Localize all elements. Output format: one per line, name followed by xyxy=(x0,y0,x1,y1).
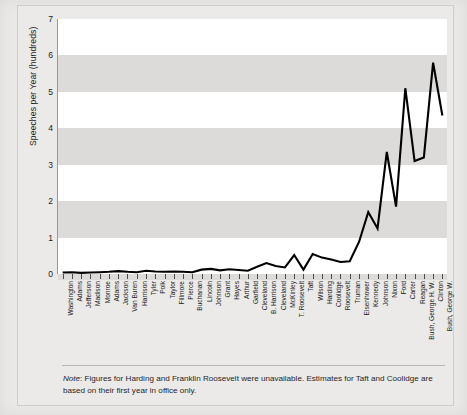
x-axis-label: Nixon xyxy=(390,281,397,298)
x-axis-label: Reagan xyxy=(418,281,425,304)
x-axis-label: Adams xyxy=(112,281,119,302)
x-axis-label: Jackson xyxy=(121,281,128,305)
x-tick-mark xyxy=(81,274,82,279)
x-axis-label: B. Harrison xyxy=(269,281,276,314)
x-axis-label: Kennedy xyxy=(371,281,378,307)
x-tick-mark xyxy=(127,274,128,279)
x-tick-mark xyxy=(100,274,101,279)
x-tick-mark xyxy=(396,274,397,279)
x-tick-mark xyxy=(174,274,175,279)
x-tick-mark xyxy=(340,274,341,279)
x-axis-label: Jefferson xyxy=(84,281,91,308)
x-tick-mark xyxy=(331,274,332,279)
x-tick-mark xyxy=(359,274,360,279)
x-tick-mark xyxy=(276,274,277,279)
x-tick-mark xyxy=(433,274,434,279)
page-background: Speeches per Year (hundreds) 01234567 Wa… xyxy=(0,0,467,415)
x-tick-mark xyxy=(220,274,221,279)
x-tick-mark xyxy=(266,274,267,279)
x-tick-mark xyxy=(303,274,304,279)
x-tick-mark xyxy=(294,274,295,279)
x-tick-mark xyxy=(137,274,138,279)
x-axis-label: Roosevelt xyxy=(343,281,350,310)
x-axis-label: Grant xyxy=(223,281,230,298)
x-tick-mark xyxy=(257,274,258,279)
x-tick-mark xyxy=(239,274,240,279)
y-tick-label: 2 xyxy=(48,197,53,206)
x-axis-label: Lincoln xyxy=(205,281,212,302)
x-axis-label: Taylor xyxy=(168,281,175,299)
y-tick-label: 5 xyxy=(48,88,53,97)
x-axis-label: Adams xyxy=(75,281,82,302)
x-tick-mark xyxy=(165,274,166,279)
chart-note: Note: Figures for Harding and Franklin R… xyxy=(63,373,448,396)
x-tick-mark xyxy=(90,274,91,279)
x-axis-label: Coolidge xyxy=(334,281,341,307)
x-axis-label: Harding xyxy=(325,281,332,304)
x-axis-label: Bush, George W. xyxy=(445,281,452,331)
y-axis-label-host: Speeches per Year (hundreds) xyxy=(30,6,44,274)
x-axis-label: Johnson xyxy=(381,281,388,306)
x-axis-label: Hayes xyxy=(232,281,239,300)
x-tick-mark xyxy=(405,274,406,279)
x-tick-mark xyxy=(313,274,314,279)
x-axis-label: Garfield xyxy=(251,281,258,304)
x-tick-mark xyxy=(192,274,193,279)
x-tick-mark xyxy=(387,274,388,279)
x-tick-mark xyxy=(248,274,249,279)
x-axis-label: Polk xyxy=(158,281,165,294)
x-tick-mark xyxy=(183,274,184,279)
y-axis-label: Speeches per Year (hundreds) xyxy=(28,27,38,146)
x-axis-label: Wilson xyxy=(316,281,323,301)
note-prefix: Note xyxy=(63,374,80,383)
y-tick-label: 0 xyxy=(48,270,53,279)
x-tick-mark xyxy=(350,274,351,279)
y-tick-label: 7 xyxy=(48,15,53,24)
plot-area: 01234567 xyxy=(58,19,447,274)
x-tick-mark xyxy=(109,274,110,279)
x-axis-label: McKinley xyxy=(288,281,295,308)
x-axis-label: Carter xyxy=(408,281,415,299)
x-axis-labels: WashingtonAdamsJeffersonMadisonMonroeAda… xyxy=(58,281,447,353)
y-tick-label: 6 xyxy=(48,51,53,60)
y-tick-label: 1 xyxy=(48,233,53,242)
x-axis-label: Cleveland xyxy=(279,281,286,310)
x-axis-label: Cleveland xyxy=(260,281,267,310)
x-tick-mark xyxy=(415,274,416,279)
y-tick-label: 3 xyxy=(48,160,53,169)
series-polyline xyxy=(63,63,443,273)
note-text: : Figures for Harding and Franklin Roose… xyxy=(63,374,433,395)
x-tick-mark xyxy=(211,274,212,279)
x-axis-label: Bush, George H. W. xyxy=(427,281,434,340)
x-axis-label: Monroe xyxy=(103,281,110,303)
x-axis-label: Johnson xyxy=(214,281,221,306)
x-axis-label: Clinton xyxy=(436,281,443,302)
x-tick-mark xyxy=(229,274,230,279)
note-divider xyxy=(62,365,445,366)
x-axis-label: Washington xyxy=(66,281,73,316)
x-axis-label: Van Buren xyxy=(130,281,137,312)
x-axis-label: Pierce xyxy=(186,281,193,300)
x-tick-mark xyxy=(202,274,203,279)
x-axis-label: Harrison xyxy=(140,281,147,306)
x-axis-label: Madison xyxy=(93,281,100,306)
x-axis-label: Tyler xyxy=(149,281,156,295)
x-tick-mark xyxy=(118,274,119,279)
x-tick-mark xyxy=(424,274,425,279)
x-axis-label: Buchanan xyxy=(195,281,202,311)
x-axis-label: Fillmore xyxy=(177,281,184,304)
x-tick-mark xyxy=(285,274,286,279)
x-tick-mark xyxy=(72,274,73,279)
x-axis-label: Arthur xyxy=(242,281,249,299)
plot-canvas xyxy=(58,19,447,274)
x-axis-label: Truman xyxy=(353,281,360,303)
x-tick-mark xyxy=(155,274,156,279)
x-tick-mark xyxy=(322,274,323,279)
x-axis-label: T. Roosevelt xyxy=(297,281,304,317)
x-axis-tick-strip xyxy=(58,274,447,280)
x-tick-mark xyxy=(442,274,443,279)
x-tick-mark xyxy=(146,274,147,279)
x-tick-mark xyxy=(378,274,379,279)
x-axis-label: Ford xyxy=(399,281,406,295)
y-tick-label: 4 xyxy=(48,124,53,133)
